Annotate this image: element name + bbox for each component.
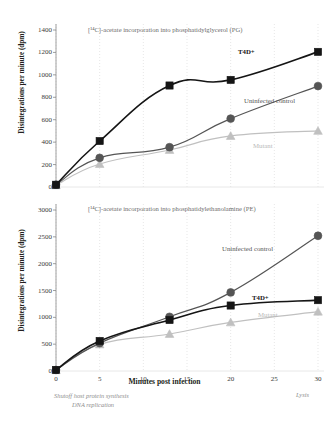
y-tick-label: 1500 [18,287,52,295]
series-label-t4d-pe: T4D+ [252,294,269,301]
chart-phosphatidylglycerol: Disintegrations per minute (dpm) 0200400… [0,4,329,200]
series-label-t4d-pg: T4D+ [238,48,255,55]
annotation-lysis: Lysis [296,391,309,398]
y-tick-label: 1400 [18,26,52,34]
x-axis-title: Minutes post infection [0,377,329,386]
series-t4d- [52,297,321,374]
annotation-dna-replication: DNA replication [72,401,114,408]
y-tick-label: 3000 [18,206,52,214]
series-uninfected-control [52,232,322,374]
y-tick-label: 2500 [18,233,52,241]
series-label-uninfected-pe: Uninfected control [222,245,273,252]
plot-area-pe: Disintegrations per minute (dpm) 0500100… [0,198,329,384]
y-tick-label: 0 [18,183,52,191]
y-tick-label: 800 [18,93,52,101]
series-label-mutant-pe: Mutant [258,311,278,318]
y-tick-label: 200 [18,161,52,169]
y-tick-labels-pg: 0200400600800100012001400 [18,4,52,200]
y-tick-label: 500 [18,340,52,348]
annotation-shutoff: Shutoff host protein synthesis [54,392,129,399]
y-tick-label: 2000 [18,260,52,268]
y-tick-label: 0 [18,367,52,375]
y-tick-label: 1000 [18,313,52,321]
y-tick-labels-pe: 050010001500200025003000 [18,198,52,384]
chart-title-pg: [¹⁴C]-acetate incorporation into phospha… [88,26,242,33]
series-label-mutant-pg: Mutant [253,142,273,149]
y-tick-label: 1200 [18,48,52,56]
chart-phosphatidylethanolamine: Disintegrations per minute (dpm) 0500100… [0,198,329,384]
plot-area-pg: Disintegrations per minute (dpm) 0200400… [0,4,329,200]
y-tick-label: 400 [18,138,52,146]
y-tick-label: 1000 [18,71,52,79]
chart-title-pe: [¹⁴C]-acetate incorporation into phospha… [88,205,256,212]
y-tick-label: 600 [18,116,52,124]
series-label-uninfected-pg: Uninfected control [244,97,295,104]
